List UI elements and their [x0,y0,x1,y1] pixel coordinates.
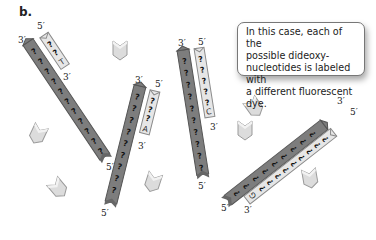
strand-2-end-top: 3′ [135,75,143,85]
strand-c-end-bottom: 3′ [210,122,218,132]
free-nucleotide-icon [47,177,70,201]
template-strand-1: ??? ??? ??? ?? [21,35,112,163]
callout-line-4: a different fluorescent dye. [246,86,360,110]
strand-g-end-bottom: 3′ [244,205,252,215]
strand-t-end-top: 5′ [37,21,45,31]
free-nucleotide-icon [302,168,319,189]
strand-1-end-top: 3′ [18,35,26,45]
free-nucleotide-icon [113,41,127,60]
callout-line-3: nucleotides is labeled with [246,62,360,86]
strand-3-end-bottom: 5′ [198,181,206,191]
strand-a-end-top: 5′ [155,79,163,89]
product-strand-g: G ??? ??? ??? [244,128,337,204]
free-nucleotide-icon [143,171,162,193]
strand-c-end-top: 5′ [198,37,206,47]
callout-line-2: possible dideoxy- [246,50,360,62]
strand-3-end-top: 3′ [178,38,186,48]
free-nucleotide-icon [27,123,48,146]
callout-line-1: In this case, each of the [246,26,360,50]
strand-a-end-bottom: 3′ [138,141,146,151]
free-nucleotide-icon [238,121,252,140]
callout-box: In this case, each of the possible dideo… [237,22,365,76]
strand-4-end-bottom: 5′ [221,203,229,213]
strand-2-end-bottom: 5′ [101,208,109,218]
strand-t-end-bottom: 3′ [63,72,71,82]
